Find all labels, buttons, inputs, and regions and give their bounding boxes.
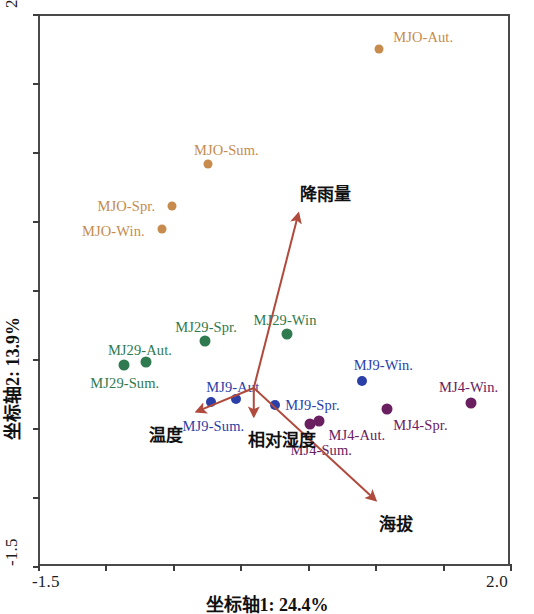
data-point-label: MJ29-Win xyxy=(253,312,316,329)
y-axis-max-label: 2.5 xyxy=(2,0,22,8)
x-axis-title: 坐标轴1: 24.4% xyxy=(0,590,534,614)
data-point-label: MJ9-Aut xyxy=(206,379,259,396)
y-axis-title: 坐标轴2: 13.9% xyxy=(0,317,24,440)
data-point xyxy=(282,329,293,340)
data-point-label: MJ9-Spr. xyxy=(285,397,339,414)
y-tick xyxy=(33,359,40,361)
top-frame-line xyxy=(38,14,510,16)
y-axis-min-label: -1.5 xyxy=(2,538,22,566)
data-point xyxy=(382,403,393,414)
data-point xyxy=(119,359,130,370)
x-axis-max-label: 2.0 xyxy=(486,572,508,592)
y-tick xyxy=(33,152,40,154)
data-point-label: MJO-Spr. xyxy=(98,198,156,215)
x-axis-min-label: -1.5 xyxy=(32,572,60,592)
data-point-label: MJO-Sum. xyxy=(194,142,259,159)
ordination-scatter-chart: MJO-Aut.MJO-Sum.MJO-Spr.MJO-Win.MJ29-Win… xyxy=(0,0,534,614)
data-point xyxy=(270,400,280,410)
data-point xyxy=(158,225,167,234)
data-point xyxy=(357,376,367,386)
data-point xyxy=(465,398,476,409)
right-frame-line xyxy=(508,14,510,566)
data-point-label: MJ9-Sum. xyxy=(183,418,245,435)
data-point xyxy=(200,336,211,347)
x-tick xyxy=(173,564,175,571)
data-point-label: MJ29-Spr. xyxy=(175,319,237,336)
x-tick xyxy=(510,564,512,571)
data-point-label: MJ4-Spr. xyxy=(393,417,447,434)
y-tick xyxy=(33,428,40,430)
y-tick xyxy=(33,497,40,499)
data-point-label: MJ29-Sum. xyxy=(90,375,159,392)
data-point xyxy=(167,201,176,210)
x-tick xyxy=(38,564,40,571)
data-point-label: MJ29-Aut. xyxy=(108,342,172,359)
environmental-vector-label: 温度 xyxy=(149,421,183,446)
y-tick xyxy=(33,290,40,292)
y-tick xyxy=(33,14,40,16)
y-tick xyxy=(33,83,40,85)
x-tick xyxy=(443,564,445,571)
data-point-label: MJ9-Win. xyxy=(354,357,413,374)
environmental-vector-label: 海拔 xyxy=(379,510,413,535)
plot-area: MJO-Aut.MJO-Sum.MJO-Spr.MJO-Win.MJ29-Win… xyxy=(38,14,510,566)
data-point xyxy=(375,44,384,53)
x-tick xyxy=(375,564,377,571)
data-point xyxy=(203,160,212,169)
x-tick xyxy=(105,564,107,571)
data-point-label: MJ4-Win. xyxy=(439,379,498,396)
environmental-vector-label: 相对湿度 xyxy=(248,426,316,451)
data-point xyxy=(206,397,216,407)
data-point-label: MJO-Aut. xyxy=(393,29,453,46)
x-axis-line xyxy=(38,564,510,566)
environmental-vector-label: 降雨量 xyxy=(300,180,351,205)
x-tick xyxy=(240,564,242,571)
y-tick xyxy=(33,221,40,223)
x-tick xyxy=(308,564,310,571)
data-point-label: MJO-Win. xyxy=(82,223,145,240)
